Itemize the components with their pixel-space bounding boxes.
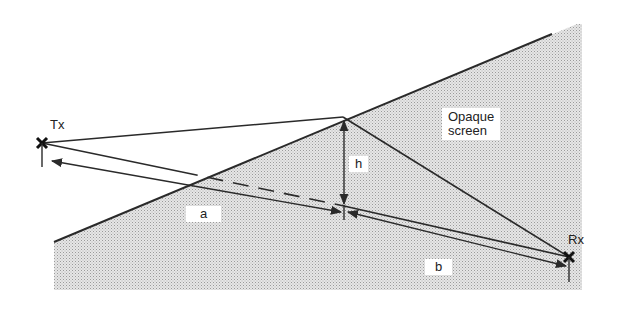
- tx-label: Tx: [50, 118, 64, 132]
- opaque-screen-label-line1: Opaque: [448, 110, 494, 124]
- direct-path-solid-1: [42, 143, 182, 172]
- height-label: h: [349, 156, 368, 172]
- rx-label: Rx: [568, 233, 584, 247]
- opaque-screen-label: Opaque screen: [442, 108, 500, 140]
- distance-b-label: b: [425, 259, 452, 275]
- opaque-screen-label-line2: screen: [448, 124, 494, 138]
- knife-edge-diagram: [0, 0, 617, 310]
- distance-a-label: a: [186, 206, 221, 222]
